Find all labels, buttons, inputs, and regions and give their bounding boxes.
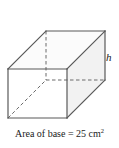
front-face [8,69,67,118]
caption-value: 25 [76,128,86,139]
base-area-caption: Area of base = 25 cm2 [0,128,119,140]
caption-prefix: Area of base = [15,128,76,139]
caption-unit: cm [89,128,101,139]
rectangular-prism-figure: h Area of base = 25 cm2 [0,0,119,148]
height-label-h: h [106,51,112,63]
caption-exponent: 2 [101,127,104,134]
